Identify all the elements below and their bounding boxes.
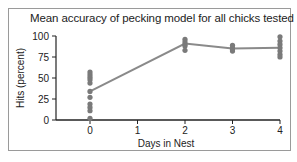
y-tick-label: 75 (38, 52, 50, 63)
data-point (87, 89, 92, 94)
y-tick-label: 0 (43, 115, 49, 126)
y-tick-label: 100 (32, 31, 49, 42)
data-point (230, 49, 235, 54)
x-tick-label: 4 (277, 125, 283, 136)
data-point (182, 48, 187, 53)
data-point (87, 116, 92, 121)
plot-area: 025507510001234 (0, 0, 297, 162)
y-tick-label: 50 (38, 73, 50, 84)
x-tick-label: 2 (182, 125, 188, 136)
x-tick-label: 1 (135, 125, 141, 136)
x-tick-label: 0 (87, 125, 93, 136)
data-point (87, 95, 92, 100)
data-point (87, 108, 92, 113)
x-tick-label: 3 (230, 125, 236, 136)
data-point (277, 54, 282, 59)
data-point (87, 80, 92, 85)
y-tick-label: 25 (38, 94, 50, 105)
